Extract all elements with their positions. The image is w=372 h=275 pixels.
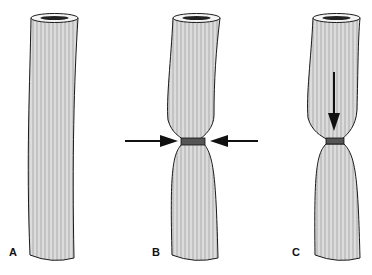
diagram-canvas xyxy=(0,0,372,275)
panel-label-b: B xyxy=(152,246,160,258)
compression-arrow-left xyxy=(125,135,178,147)
panel-label-c: C xyxy=(292,246,300,258)
tube-a xyxy=(28,14,78,261)
compression-arrow-right xyxy=(210,135,258,147)
panel-label-a: A xyxy=(9,246,17,258)
tube-c xyxy=(308,14,360,261)
tube-b xyxy=(168,14,220,261)
diagram-figure: A B C xyxy=(0,0,372,275)
